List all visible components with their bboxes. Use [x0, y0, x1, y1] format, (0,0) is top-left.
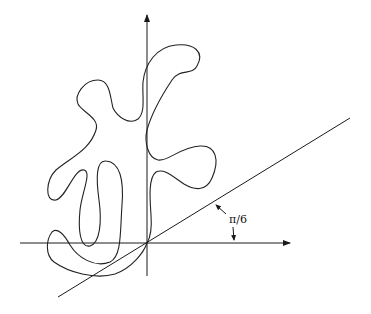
angled-line — [58, 118, 350, 297]
diagram-canvas: π/6 — [0, 0, 371, 314]
angle-arrow-lower — [233, 227, 234, 240]
closed-curve — [47, 45, 216, 276]
angle-arrow-upper — [216, 205, 226, 214]
angle-label: π/6 — [229, 213, 247, 226]
